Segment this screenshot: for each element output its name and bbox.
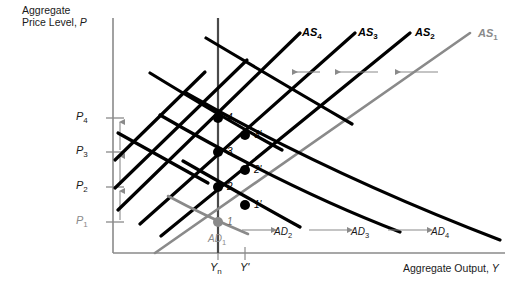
- ad-curve-4: [186, 93, 500, 240]
- as-label-2: AS2: [415, 26, 435, 42]
- point-marker-2: [213, 182, 223, 192]
- as-label-4: AS4: [302, 26, 322, 42]
- point-label-3p: 3': [254, 129, 261, 141]
- as-label-1: AS1: [478, 27, 498, 43]
- y-tick-label-p4: P4: [76, 110, 88, 126]
- y-axis-title-line1: Aggregate: [22, 4, 70, 16]
- x-axis-title: Aggregate Output, Y: [403, 262, 499, 274]
- point-label-1: 1: [227, 216, 233, 228]
- ad-label-2: AD2: [274, 226, 292, 241]
- point-marker-4: [213, 113, 223, 123]
- y-tick-label-p2: P2: [76, 179, 88, 195]
- point-label-2: 2: [227, 181, 233, 193]
- point-label-1p: 1': [254, 199, 261, 211]
- as-curves: [115, 33, 470, 253]
- point-marker-1: [213, 217, 223, 227]
- y-tick-label-p1: P1: [76, 214, 88, 230]
- as-curve-2: [161, 33, 410, 236]
- as-curve-1: [155, 33, 470, 253]
- ad-label-3: AD3: [351, 226, 369, 241]
- figure-canvas: Aggregate Price Level, P Aggregate Outpu…: [0, 0, 516, 289]
- x-tick-label-yn: Yn: [210, 261, 222, 277]
- as-label-3: AS3: [358, 26, 378, 42]
- point-label-4: 4: [227, 112, 233, 124]
- point-marker-3p: [240, 130, 250, 140]
- point-label-2p: 2': [254, 164, 261, 176]
- ad-curve-5: [150, 73, 282, 150]
- ad-curves: [118, 38, 500, 240]
- y-axis-title: Aggregate Price Level, P: [22, 4, 87, 29]
- x-tick-label-yprime: Y': [240, 261, 249, 274]
- ad-curve-1: [168, 196, 248, 234]
- ad-label-1: AD1: [208, 233, 226, 248]
- y-axis-title-line2: Price Level, P: [22, 16, 87, 28]
- point-marker-1p: [240, 200, 250, 210]
- point-marker-2p: [240, 165, 250, 175]
- y-tick-label-p3: P3: [76, 144, 88, 160]
- point-marker-3: [213, 147, 223, 157]
- point-label-3: 3: [227, 146, 233, 158]
- ad-label-4: AD4: [431, 226, 449, 241]
